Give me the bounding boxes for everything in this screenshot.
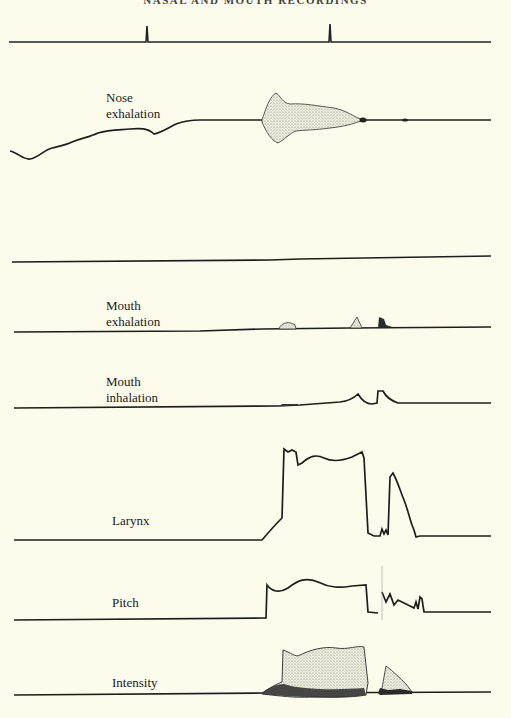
pitch-label: Pitch: [112, 595, 139, 611]
mouth-exhalation-trace: [14, 317, 491, 332]
larynx-trace: [14, 449, 491, 540]
nose-exhalation-label: Nose exhalation: [106, 90, 160, 122]
nose-inhalation-trace: [12, 256, 491, 262]
mouth-inhalation-label: Mouth inhalation: [106, 374, 158, 406]
timing-trace: [9, 24, 491, 42]
larynx-label: Larynx: [112, 513, 150, 529]
label-line-1: Nose: [106, 90, 160, 106]
mouth-inhalation-trace: [14, 391, 491, 408]
recording-figure: [0, 0, 511, 718]
mouth-exhalation-label: Mouth exhalation: [106, 298, 160, 330]
label-line-2: exhalation: [106, 106, 160, 122]
pitch-trace: [14, 566, 491, 620]
label-line-1: Mouth: [106, 374, 158, 390]
label-line-2: inhalation: [106, 390, 158, 406]
label-line-1: Mouth: [106, 298, 160, 314]
intensity-label: Intensity: [112, 675, 158, 691]
label-line-2: exhalation: [106, 314, 160, 330]
nose-exhalation-trace: [10, 93, 491, 159]
intensity-trace: [14, 647, 491, 698]
